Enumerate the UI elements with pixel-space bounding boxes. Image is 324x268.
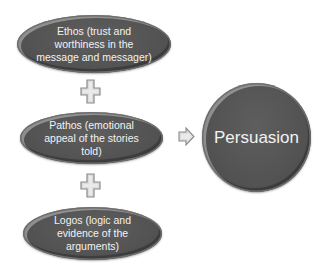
persuasion-node: Persuasion bbox=[202, 83, 311, 192]
logos-label: Logos (logic and evidence of the argumen… bbox=[23, 214, 162, 253]
pathos-node: Pathos (emotional appeal of the stories … bbox=[20, 112, 163, 164]
logos-node: Logos (logic and evidence of the argumen… bbox=[23, 207, 162, 260]
arrow-right-icon bbox=[178, 127, 195, 146]
pathos-label: Pathos (emotional appeal of the stories … bbox=[20, 119, 163, 158]
ethos-label: Ethos (trust and worthiness in the messa… bbox=[17, 25, 171, 64]
plus-icon bbox=[80, 79, 101, 104]
ethos-node: Ethos (trust and worthiness in the messa… bbox=[17, 15, 171, 73]
plus-icon bbox=[80, 173, 101, 198]
persuasion-label: Persuasion bbox=[214, 128, 299, 148]
